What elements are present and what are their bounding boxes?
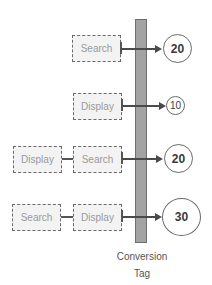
channel-box-search: Search: [73, 146, 122, 173]
arrowhead-icon: [156, 155, 163, 163]
label-line-2: Tag: [112, 265, 172, 282]
conversion-value: 10: [170, 100, 181, 111]
channel-box-display: Display: [13, 146, 62, 173]
conversion-value-circle: 20: [163, 34, 192, 63]
channel-label: Display: [81, 101, 114, 112]
arrowhead-icon: [155, 45, 162, 53]
channel-label: Display: [81, 212, 114, 223]
conversion-value-circle: 30: [162, 198, 201, 236]
arrow-line: [122, 216, 155, 218]
arrow-line: [122, 158, 156, 160]
channel-label: Search: [82, 154, 114, 165]
path-connector: [62, 158, 73, 160]
conversion-value: 20: [172, 152, 185, 166]
channel-box-search: Search: [72, 35, 121, 62]
conversion-value-circle: 20 10: [166, 96, 185, 115]
channel-box-display: Display: [73, 93, 122, 120]
conversion-tag-bar: [135, 19, 147, 243]
arrowhead-icon: [159, 102, 166, 110]
arrow-line: [122, 105, 159, 107]
conversion-value: 30: [175, 210, 188, 224]
conversion-value: 20: [171, 42, 184, 56]
conversion-value-circle: 20: [164, 144, 193, 173]
label-line-1: Conversion: [112, 248, 172, 265]
channel-label: Display: [21, 154, 54, 165]
channel-label: Search: [81, 43, 113, 54]
channel-box-display: Display: [73, 204, 122, 231]
arrowhead-icon: [155, 213, 162, 221]
path-connector: [61, 216, 73, 218]
conversion-tag-label: Conversion Tag: [112, 248, 172, 282]
arrow-line: [121, 48, 155, 50]
channel-box-search: Search: [12, 204, 61, 231]
channel-label: Search: [21, 212, 53, 223]
